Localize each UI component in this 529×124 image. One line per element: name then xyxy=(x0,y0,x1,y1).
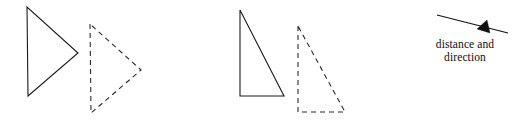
vector-caption: distance and direction xyxy=(418,38,512,64)
vector-arrow-head-icon xyxy=(477,20,490,33)
vector-arrow-line xyxy=(437,15,508,33)
dashed-triangle-middle xyxy=(298,26,345,112)
dashed-triangle-left xyxy=(90,24,141,113)
caption-line-one: distance and xyxy=(418,38,512,51)
caption-line-two: direction xyxy=(418,51,512,64)
solid-triangle-middle xyxy=(240,10,284,96)
solid-triangle-left xyxy=(27,7,78,96)
translation-figure: distance and direction xyxy=(0,0,529,124)
